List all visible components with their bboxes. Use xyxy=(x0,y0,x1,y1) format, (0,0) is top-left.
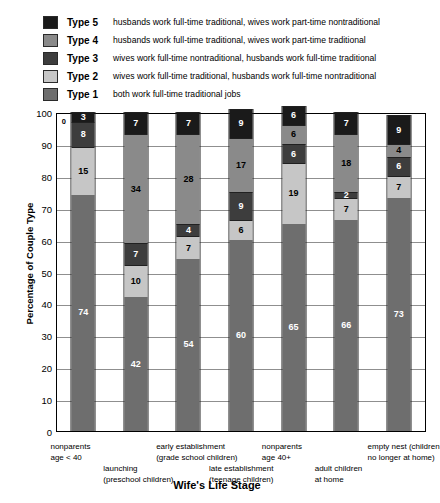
stacked-bar[interactable]: 42107347 xyxy=(123,112,148,431)
bar-segment[interactable]: 7 xyxy=(124,243,147,265)
bar-segment[interactable]: 9 xyxy=(387,115,410,144)
bar-segment[interactable]: 15 xyxy=(72,147,95,195)
bar-segment-value-label: 10 xyxy=(131,277,141,286)
bar-segment[interactable]: 60 xyxy=(230,240,253,431)
bar-segment-value-label: 6 xyxy=(291,130,296,139)
bar-segment[interactable]: 6 xyxy=(230,220,253,239)
stacked-bar[interactable]: 6519666 xyxy=(281,106,306,431)
bar-segment-value-label: 6 xyxy=(239,226,244,235)
bar-segment-value-label: 0 xyxy=(62,118,66,126)
bar-slot: 737649 xyxy=(372,114,425,431)
bar-segment[interactable]: 66 xyxy=(335,220,358,431)
bar-segment-value-label: 18 xyxy=(341,159,351,168)
y-axis-tick-label: 100 xyxy=(22,108,52,119)
bar-segment-value-label: 6 xyxy=(291,111,296,120)
bar-segment-value-label: 9 xyxy=(239,119,244,128)
bar-segment[interactable]: 17 xyxy=(230,138,253,192)
legend-description-label: wives work full-time traditional, husban… xyxy=(113,71,433,81)
bar-segment[interactable]: 7 xyxy=(124,112,147,134)
bar-segment[interactable]: 7 xyxy=(177,112,200,134)
bar-segment[interactable]: 6 xyxy=(387,157,410,176)
y-axis-tick-label: 40 xyxy=(22,299,52,310)
bar-segment[interactable]: 65 xyxy=(282,224,305,431)
bar-segment[interactable]: 28 xyxy=(177,134,200,223)
bar-segment[interactable]: 7 xyxy=(335,198,358,220)
bar-segment[interactable]: 19 xyxy=(282,163,305,224)
x-axis-category-line1: launching xyxy=(103,464,173,475)
bar-segment[interactable]: 74 xyxy=(72,195,95,431)
legend-key-label: Type 2 xyxy=(67,71,113,82)
legend-description-label: wives work full-time nontraditional, hus… xyxy=(113,53,433,63)
bar-slot: 6069179 xyxy=(215,114,268,431)
stacked-bar[interactable]: 737649 xyxy=(386,115,411,431)
x-axis-category-line2: age < 40 xyxy=(50,453,90,464)
bar-segment-value-label: 9 xyxy=(239,202,244,211)
bar-slot: 6672187 xyxy=(320,114,373,431)
bar-segment[interactable]: 42 xyxy=(124,297,147,431)
x-axis-category-label: early establishment(grade school childre… xyxy=(156,442,237,463)
legend-swatch-icon xyxy=(43,34,58,47)
bar-segment-value-label: 9 xyxy=(396,126,401,135)
bar-slot: 7415803 xyxy=(57,114,110,431)
y-axis-tick-label: 60 xyxy=(22,235,52,246)
legend-swatch-icon xyxy=(43,16,58,29)
bar-segment[interactable]: 4 xyxy=(387,144,410,157)
legend-swatch-icon xyxy=(43,88,58,101)
stacked-bar[interactable]: 7415803 xyxy=(71,112,96,431)
bar-segment[interactable]: 7 xyxy=(387,176,410,198)
bar-segment-value-label: 73 xyxy=(394,310,404,319)
bar-segment[interactable]: 7 xyxy=(335,112,358,134)
bar-segment-value-label: 60 xyxy=(236,331,246,340)
x-axis-category-line2: no longer at home) xyxy=(368,453,440,464)
bar-segment-value-label: 17 xyxy=(236,161,246,170)
bar-segment[interactable]: 3 xyxy=(72,112,95,122)
legend-key-label: Type 1 xyxy=(67,89,113,100)
bar-slot: 42107347 xyxy=(110,114,163,431)
bar-segment-value-label: 54 xyxy=(183,340,193,349)
bar-segment[interactable]: 10 xyxy=(124,265,147,297)
bar-segment[interactable]: 9 xyxy=(230,192,253,221)
y-axis-tick-label: 70 xyxy=(22,203,52,214)
x-axis-category-line1: nonparents xyxy=(262,442,302,453)
y-axis-tick-label: 30 xyxy=(22,331,52,342)
bar-segment-value-label: 3 xyxy=(81,113,86,122)
bar-segment[interactable]: 34 xyxy=(124,134,147,242)
bar-segment[interactable]: 6 xyxy=(282,125,305,144)
bar-segment-value-label: 7 xyxy=(133,119,138,128)
bar-segment-value-label: 8 xyxy=(81,130,86,139)
bar-segment[interactable]: 2 xyxy=(335,192,358,198)
x-axis-category-line1: empty nest (children xyxy=(368,442,440,453)
bar-segment-value-label: 2 xyxy=(344,191,349,200)
bar-segment-value-label: 7 xyxy=(133,250,138,259)
x-axis-category-label: empty nest (childrenno longer at home) xyxy=(368,442,440,463)
y-axis-ticks: 0102030405060708090100 xyxy=(22,108,52,433)
bar-segment[interactable]: 8 xyxy=(72,122,95,148)
bar-segment-value-label: 6 xyxy=(291,150,296,159)
bar-segment[interactable]: 73 xyxy=(387,198,410,431)
legend-item: Type 1both work full-time traditional jo… xyxy=(43,85,433,103)
legend-swatch-icon xyxy=(43,70,58,83)
bar-segment-value-label: 28 xyxy=(183,175,193,184)
stacked-bar[interactable]: 6672187 xyxy=(334,112,359,431)
bar-segment[interactable]: 18 xyxy=(335,134,358,191)
y-axis-tick-label: 90 xyxy=(22,139,52,150)
legend-description-label: both work full-time traditional jobs xyxy=(113,89,433,99)
legend-item: Type 2wives work full-time traditional, … xyxy=(43,67,433,85)
stacked-bar[interactable]: 6069179 xyxy=(229,109,254,431)
bar-segment[interactable]: 4 xyxy=(177,224,200,237)
x-axis-category-line1: early establishment xyxy=(156,442,237,453)
legend-key-label: Type 5 xyxy=(67,17,113,28)
bar-segment-value-label: 65 xyxy=(289,323,299,332)
bar-segment[interactable]: 9 xyxy=(230,109,253,138)
bar-segment[interactable]: 6 xyxy=(282,106,305,125)
bar-segment-value-label: 6 xyxy=(396,162,401,171)
bar-segment-value-label: 66 xyxy=(341,321,351,330)
bar-segment[interactable]: 54 xyxy=(177,259,200,431)
bar-segment[interactable]: 6 xyxy=(282,144,305,163)
plot-wrapper: Percentage of Couple Type 01020304050607… xyxy=(0,108,434,438)
x-axis-labels: nonparentsage < 40launching(preschool ch… xyxy=(56,438,426,483)
bar-segment-value-label: 42 xyxy=(131,360,141,369)
stacked-bar[interactable]: 5474287 xyxy=(176,112,201,431)
bar-segment[interactable]: 7 xyxy=(177,236,200,258)
bar-segment-value-label: 4 xyxy=(396,146,401,155)
